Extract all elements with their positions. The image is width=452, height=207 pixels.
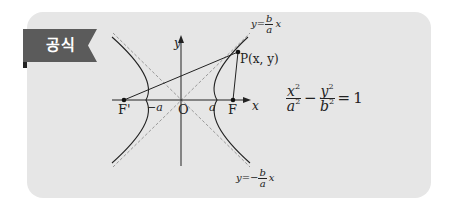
minus-operator: −	[304, 89, 317, 107]
asymptote-lower-label: y=−bax	[236, 168, 274, 189]
focus-right-label: F	[228, 104, 237, 115]
x-axis-label: x	[252, 101, 259, 112]
term-y-over-b: y2 b2	[320, 84, 335, 113]
hyperbola-equation: x2 a2 − y2 b2 =1	[286, 84, 363, 113]
segment-PF	[233, 52, 238, 100]
vertex-left-label: −a	[147, 102, 163, 113]
origin-label: O	[178, 104, 189, 115]
focus-left-label: F'	[118, 104, 131, 115]
hyperbola-diagram	[0, 0, 452, 207]
equals-sign: =	[338, 89, 351, 107]
term-x-over-a: x2 a2	[286, 84, 301, 113]
equation-rhs: 1	[353, 89, 363, 107]
y-axis-label: y	[174, 38, 181, 49]
x-axis-arrow-icon	[243, 97, 251, 103]
point-P-label: P(x, y)	[240, 54, 279, 65]
asymptote-upper-label: y=bax	[251, 14, 281, 35]
vertex-right-label: a	[209, 102, 216, 113]
